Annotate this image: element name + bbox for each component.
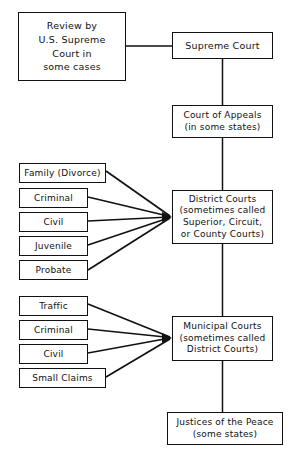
arrowhead-district — [162, 212, 172, 222]
node-line: Criminal — [34, 193, 73, 204]
node-line: Court in — [52, 47, 91, 61]
node-line: or County Courts) — [181, 229, 264, 241]
court-system-diagram: Review by U.S. Supreme Court in some cas… — [0, 0, 295, 455]
node-probate: Probate — [19, 260, 88, 280]
node-line: Traffic — [39, 301, 68, 312]
node-line: Court of Appeals — [183, 110, 261, 122]
arrowhead-municipal — [162, 333, 172, 343]
node-line: Small Claims — [32, 373, 93, 384]
node-line: District Courts — [189, 194, 257, 206]
node-line: Superior, Circuit, — [183, 217, 262, 229]
node-review-by-us-supreme-court: Review by U.S. Supreme Court in some cas… — [18, 12, 126, 81]
node-criminal-district: Criminal — [19, 188, 88, 208]
node-line: Probate — [36, 265, 72, 276]
edge-family-to-district — [106, 171, 170, 216]
node-line: U.S. Supreme — [38, 33, 105, 47]
node-line: Review by — [47, 19, 97, 33]
node-civil-municipal: Civil — [19, 344, 88, 364]
node-line: District Courts) — [187, 344, 258, 356]
edge-juvenile-to-district — [88, 218, 170, 246]
node-line: Juvenile — [35, 241, 72, 252]
node-line: Civil — [43, 349, 63, 360]
node-municipal-courts: Municipal Courts (sometimes called Distr… — [172, 316, 273, 361]
node-line: Civil — [43, 217, 63, 228]
node-justices-of-the-peace: Justices of the Peace (some states) — [167, 412, 283, 445]
edge-criminal1-to-district — [88, 197, 170, 217]
node-line: Supreme Court — [185, 40, 259, 51]
node-line: (sometimes called — [179, 205, 265, 217]
node-line: (some states) — [193, 429, 257, 441]
node-line: (sometimes called — [179, 333, 265, 345]
node-family-divorce: Family (Divorce) — [19, 163, 106, 183]
node-line: (in some states) — [184, 122, 260, 134]
edge-probate-to-district — [88, 218, 170, 270]
edge-smallclaims-to-municipal — [106, 339, 170, 377]
node-juvenile: Juvenile — [19, 236, 88, 256]
node-court-of-appeals: Court of Appeals (in some states) — [172, 105, 273, 138]
node-small-claims: Small Claims — [19, 368, 106, 388]
node-traffic: Traffic — [19, 296, 88, 316]
node-civil-district: Civil — [19, 212, 88, 232]
node-line: Municipal Courts — [183, 321, 261, 333]
node-district-courts: District Courts (sometimes called Superi… — [172, 190, 273, 244]
edge-civil1-to-district — [88, 217, 170, 221]
node-criminal-municipal: Criminal — [19, 320, 88, 340]
node-supreme-court: Supreme Court — [172, 32, 273, 59]
node-line: Justices of the Peace — [176, 417, 273, 429]
edge-criminal2-to-municipal — [88, 329, 170, 338]
node-line: Family (Divorce) — [24, 168, 100, 179]
edge-traffic-to-municipal — [88, 304, 170, 337]
edge-civil2-to-municipal — [88, 338, 170, 353]
node-line: Criminal — [34, 325, 73, 336]
node-line: some cases — [43, 60, 101, 74]
